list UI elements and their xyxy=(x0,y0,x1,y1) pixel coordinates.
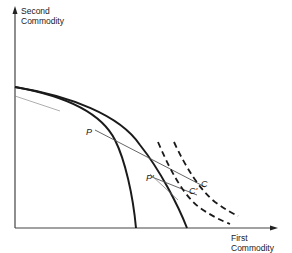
indifference-curve-inner xyxy=(158,142,230,224)
tangent-at-pprime xyxy=(150,174,178,200)
y-axis-label-line2: Commodity xyxy=(21,16,64,26)
price-line-extension-left xyxy=(15,96,60,111)
diagram: Second Commodity First Commodity P P' C … xyxy=(0,0,292,253)
outer-production-curve xyxy=(15,87,187,228)
x-axis-arrow-icon xyxy=(270,226,278,231)
point-p-prime-label: P' xyxy=(146,173,154,183)
point-c-label: C xyxy=(201,179,208,189)
x-axis-label: First Commodity xyxy=(231,233,274,253)
y-axis-label-line1: Second xyxy=(21,6,64,16)
point-c-prime-label: C' xyxy=(189,186,197,196)
y-axis xyxy=(13,6,18,228)
x-axis xyxy=(15,226,278,231)
y-axis-arrow-icon xyxy=(13,6,18,14)
inner-production-curve xyxy=(15,87,136,228)
x-axis-label-line1: First xyxy=(231,233,274,243)
point-p-label: P xyxy=(86,127,92,137)
x-axis-label-line2: Commodity xyxy=(231,243,274,253)
diagram-svg xyxy=(0,0,292,253)
y-axis-label: Second Commodity xyxy=(21,6,64,26)
